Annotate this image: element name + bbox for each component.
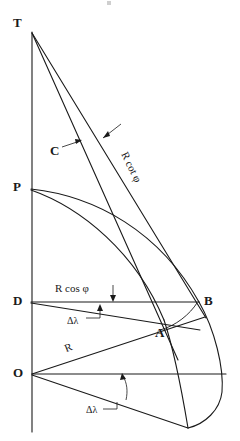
point-label-O: O	[13, 366, 23, 379]
scan-artifact-speck	[107, 1, 111, 5]
point-label-B: B	[204, 294, 213, 307]
diagram-canvas	[0, 0, 240, 441]
point-label-D: D	[13, 294, 22, 307]
curve-p-to-a-inner	[31, 190, 164, 320]
line-t-to-a-inner	[32, 33, 178, 360]
line-o-to-bottom	[32, 375, 188, 428]
annotation-delta-lambda-lower: Δλ	[86, 405, 97, 415]
line-d-through-a	[31, 303, 200, 330]
annotation-label-C: C	[50, 144, 59, 157]
arrowhead-r-cos-phi	[110, 295, 116, 302]
arrowhead-delta-lambda-upper	[97, 304, 103, 311]
line-o-to-a	[32, 317, 205, 374]
line-t-to-b-outer	[32, 33, 206, 318]
point-label-P: P	[13, 180, 21, 193]
annotation-delta-lambda-upper: Δλ	[67, 316, 78, 326]
annotation-r-cos-phi: R cos φ	[55, 283, 89, 294]
point-label-A: A	[155, 326, 164, 339]
arc-delta-lambda-lower	[123, 376, 127, 400]
point-label-T: T	[13, 16, 22, 29]
arrowhead-outer-line	[103, 131, 110, 138]
geometry-figure: T P D O A B C R cot φ R cos φ Δλ R Δλ	[0, 0, 240, 441]
